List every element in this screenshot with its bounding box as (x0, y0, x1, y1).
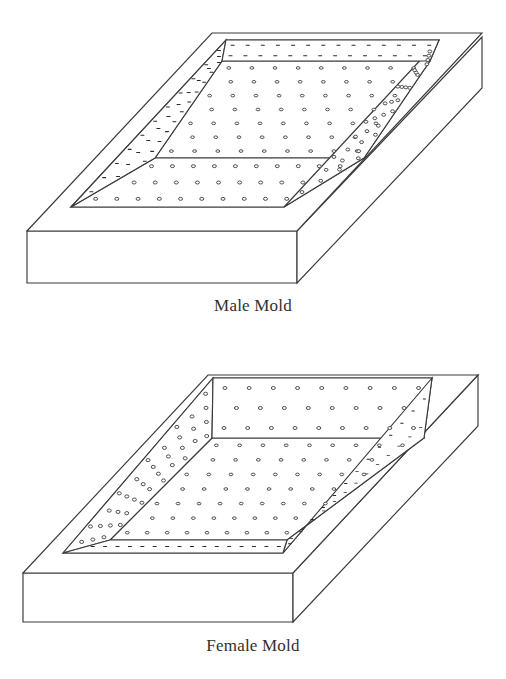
perforation-hole (185, 473, 189, 476)
perforation-mark (288, 543, 291, 544)
perforation-hole (382, 113, 386, 116)
perforation-hole (400, 85, 404, 88)
perforation-mark (387, 455, 390, 456)
perforation-hole (402, 407, 406, 410)
perforation-mark (207, 68, 211, 69)
perforation-hole (227, 67, 231, 70)
male-mold-panel: Male Mold (0, 0, 506, 340)
perforation-hole (428, 50, 432, 53)
perforation-mark (367, 459, 370, 460)
perforation-hole (238, 181, 242, 184)
perforation-hole (233, 165, 237, 168)
perforation-hole (306, 407, 310, 410)
perforation-mark (202, 546, 206, 547)
perforation-mark (299, 531, 302, 532)
perforation-hole (117, 492, 121, 495)
perforation-mark (397, 45, 401, 46)
perforation-hole (330, 136, 334, 139)
perforation-mark (246, 45, 250, 46)
perforation-hole (317, 165, 321, 168)
perforation-mark (311, 520, 314, 521)
perforation-hole (132, 498, 136, 501)
perforation-hole (254, 165, 258, 168)
perforation-hole (296, 67, 300, 70)
perforation-mark (128, 149, 132, 150)
perforation-mark (412, 45, 416, 46)
male-slab-front-face (27, 231, 297, 283)
perforation-hole (404, 86, 408, 89)
perforation-mark (365, 473, 368, 474)
perforation-hole (162, 446, 166, 449)
perforation-hole (125, 512, 129, 515)
perforation-hole (275, 165, 279, 168)
perforation-mark (165, 546, 169, 547)
perforation-hole (349, 108, 353, 111)
perforation-hole (145, 531, 149, 534)
perforation-hole (150, 517, 154, 520)
perforation-mark (277, 546, 281, 547)
perforation-mark (228, 55, 232, 56)
perforation-mark (187, 101, 191, 102)
perforation-mark (389, 435, 392, 436)
perforation-hole (216, 150, 220, 153)
perforation-hole (239, 502, 243, 505)
perforation-hole (391, 110, 395, 113)
perforation-hole (331, 444, 335, 447)
perforation-hole (330, 407, 334, 410)
perforation-mark (89, 191, 93, 192)
perforation-hole (192, 427, 196, 430)
perforation-mark (172, 121, 176, 122)
perforation-hole (107, 509, 111, 512)
perforation-hole (183, 457, 187, 460)
perforation-hole (242, 197, 246, 200)
perforation-hole (378, 407, 382, 410)
perforation-hole (98, 524, 102, 527)
perforation-hole (258, 122, 262, 125)
perforation-hole (317, 427, 321, 430)
perforation-mark (153, 121, 157, 122)
perforation-hole (396, 85, 400, 88)
perforation-hole (296, 473, 300, 476)
perforation-mark (217, 56, 221, 57)
perforation-mark (288, 55, 292, 56)
perforation-hole (332, 155, 336, 158)
perforation-hole (254, 94, 258, 97)
perforation-mark (126, 164, 130, 165)
perforation-hole (302, 459, 306, 462)
perforation-hole (294, 517, 298, 520)
perforation-mark (354, 483, 357, 484)
perforation-hole (234, 407, 238, 410)
perforation-hole (364, 120, 368, 123)
perforation-mark (167, 116, 171, 117)
perforation-hole (296, 387, 300, 390)
perforation-mark (333, 55, 337, 56)
perforation-mark (378, 55, 382, 56)
perforation-mark (408, 55, 412, 56)
perforation-hole (345, 80, 349, 83)
perforation-mark (191, 78, 195, 79)
perforation-hole (175, 425, 179, 428)
perforation-hole (189, 122, 193, 125)
perforation-hole (273, 473, 277, 476)
perforation-mark (400, 423, 403, 424)
perforation-mark (187, 92, 191, 93)
perforation-hole (373, 117, 377, 120)
perforation-mark (197, 80, 201, 81)
perforation-hole (344, 387, 348, 390)
perforation-mark (158, 141, 162, 142)
perforation-hole (195, 181, 199, 184)
perforation-hole (271, 387, 275, 390)
perforation-hole (210, 108, 214, 111)
perforation-mark (204, 64, 208, 65)
perforation-hole (307, 136, 311, 139)
perforation-hole (372, 108, 376, 111)
perforation-mark (264, 546, 268, 547)
perforation-hole (265, 531, 269, 534)
perforation-hole (212, 122, 216, 125)
perforation-mark (217, 50, 221, 51)
perforation-hole (259, 181, 263, 184)
perforation-mark (344, 483, 347, 484)
perforation-hole (221, 197, 225, 200)
perforation-hole (214, 136, 218, 139)
perforation-hole (282, 407, 286, 410)
